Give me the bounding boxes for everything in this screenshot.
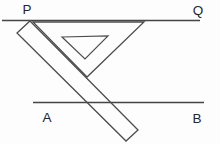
label-b: B: [192, 111, 201, 126]
label-p: P: [22, 2, 31, 17]
geometry-diagram: P Q A B: [0, 0, 220, 144]
label-a: A: [42, 110, 51, 125]
label-q: Q: [193, 3, 204, 18]
diagram-svg: P Q A B: [0, 0, 220, 144]
